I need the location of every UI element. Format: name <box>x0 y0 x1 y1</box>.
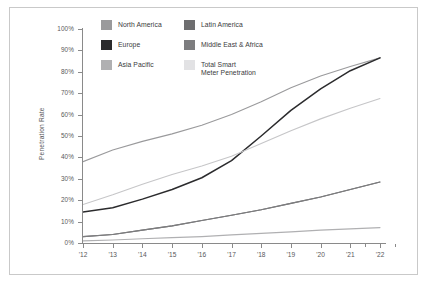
legend-column-left: North AmericaEuropeAsia Pacific <box>101 20 191 80</box>
x-axis-tick <box>291 244 292 248</box>
y-axis-tick <box>78 200 82 201</box>
legend-label: Middle East & Africa <box>201 40 263 49</box>
series-line <box>83 182 380 237</box>
x-axis-tick <box>350 244 351 248</box>
x-axis-tick <box>113 244 114 248</box>
legend-swatch-icon <box>101 60 112 70</box>
x-axis-line <box>82 243 386 244</box>
y-axis-tick-label: 20% <box>40 196 74 203</box>
y-axis-tick-label: 0% <box>40 239 74 246</box>
x-axis-tick <box>202 244 203 248</box>
y-axis-tick-label: 100% <box>40 25 74 32</box>
x-axis-tick <box>380 244 381 248</box>
x-axis-minor-tick <box>365 244 366 247</box>
x-axis-tick-label: '18 <box>249 251 273 258</box>
y-axis-tick <box>78 179 82 180</box>
y-axis-tick <box>78 157 82 158</box>
x-axis-tick-label: '20 <box>309 251 333 258</box>
legend-swatch-icon <box>101 20 112 30</box>
legend-item[interactable]: Europe <box>101 40 191 60</box>
legend-swatch-icon <box>101 40 112 50</box>
y-axis-tick-label: 80% <box>40 68 74 75</box>
x-axis-tick <box>172 244 173 248</box>
y-axis-tick <box>78 93 82 94</box>
legend-item[interactable]: Asia Pacific <box>101 60 191 80</box>
legend-swatch-icon <box>184 60 195 70</box>
x-axis-tick-label: '12 <box>71 251 95 258</box>
legend-item[interactable]: Middle East & Africa <box>184 40 314 60</box>
y-axis-tick-label: 50% <box>40 132 74 139</box>
x-axis-tick-label: '22 <box>368 251 392 258</box>
y-axis-tick-label: 60% <box>40 111 74 118</box>
x-axis-tick <box>142 244 143 248</box>
x-axis-tick-label: '16 <box>190 251 214 258</box>
x-axis-minor-tick <box>395 244 396 247</box>
y-axis-tick <box>78 50 82 51</box>
legend-label: Asia Pacific <box>118 60 154 69</box>
legend-label: Total Smart Meter Penetration <box>201 60 256 78</box>
series-line <box>83 228 380 241</box>
series-line <box>83 182 380 237</box>
y-axis-labels: 0%10%20%30%40%50%60%70%80%90%100% <box>38 0 74 284</box>
legend-swatch-icon <box>184 40 195 50</box>
x-axis-tick <box>261 244 262 248</box>
legend-label: Latin America <box>201 20 243 29</box>
y-axis-tick <box>78 243 82 244</box>
legend-label: North America <box>118 20 162 29</box>
x-axis-tick-label: '17 <box>220 251 244 258</box>
legend-item[interactable]: Total Smart Meter Penetration <box>184 60 314 80</box>
y-axis-tick <box>78 222 82 223</box>
chart-figure: Penetration Rate 0%10%20%30%40%50%60%70%… <box>0 0 427 284</box>
y-axis-tick <box>78 136 82 137</box>
y-axis-tick-label: 10% <box>40 218 74 225</box>
x-axis-tick-label: '13 <box>101 251 125 258</box>
y-axis-tick-label: 90% <box>40 46 74 53</box>
legend-item[interactable]: North America <box>101 20 191 40</box>
x-axis-tick-label: '15 <box>160 251 184 258</box>
y-axis-tick <box>78 115 82 116</box>
chart-legend: North AmericaEuropeAsia Pacific Latin Am… <box>101 20 316 82</box>
y-axis-tick-label: 30% <box>40 175 74 182</box>
x-axis-tick-label: '14 <box>130 251 154 258</box>
legend-label: Europe <box>118 40 140 49</box>
x-axis-tick-label: '19 <box>279 251 303 258</box>
legend-item[interactable]: Latin America <box>184 20 314 40</box>
y-axis-tick-label: 40% <box>40 153 74 160</box>
y-axis-tick-label: 70% <box>40 89 74 96</box>
legend-column-right: Latin AmericaMiddle East & AfricaTotal S… <box>184 20 314 80</box>
x-axis-tick <box>232 244 233 248</box>
x-axis-tick <box>321 244 322 248</box>
y-axis-tick <box>78 72 82 73</box>
y-axis-tick <box>78 29 82 30</box>
x-axis-tick <box>83 244 84 248</box>
legend-swatch-icon <box>184 20 195 30</box>
x-axis-tick-label: '21 <box>338 251 362 258</box>
